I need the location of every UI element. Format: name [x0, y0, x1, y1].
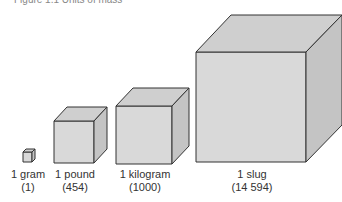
pound-name: 1 pound	[48, 168, 102, 181]
kilogram-name: 1 kilogram	[110, 168, 180, 181]
slug-cube	[196, 15, 342, 162]
slug-label: 1 slug (14 594)	[222, 168, 282, 194]
gram-name: 1 gram	[2, 168, 54, 181]
pound-cube	[54, 107, 107, 163]
pound-label: 1 pound (454)	[48, 168, 102, 194]
gram-value: (1)	[2, 181, 54, 194]
kilogram-value: (1000)	[110, 181, 180, 194]
gram-cube	[23, 149, 35, 162]
pound-value: (454)	[48, 181, 102, 194]
gram-label: 1 gram (1)	[2, 168, 54, 194]
slug-name: 1 slug	[222, 168, 282, 181]
kilogram-cube	[116, 88, 189, 164]
kilogram-label: 1 kilogram (1000)	[110, 168, 180, 194]
slug-value: (14 594)	[222, 181, 282, 194]
